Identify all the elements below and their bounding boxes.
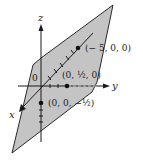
z-axis-arrow-icon: [39, 24, 44, 31]
plane-intercepts-diagram: z y x 0 (− 5, 0, 0) (0, ½, 0) (0, 0, −½): [0, 0, 143, 165]
point-y-intercept-label: (0, ½, 0): [62, 71, 101, 80]
z-axis-label: z: [38, 13, 43, 23]
diagram-canvas: [0, 0, 143, 165]
x-axis-label: x: [9, 110, 15, 120]
y-axis-label: y: [112, 81, 118, 91]
point-z-intercept: [39, 101, 44, 106]
point-y-intercept: [65, 84, 70, 89]
point-x-intercept-label: (− 5, 0, 0): [85, 44, 131, 53]
point-x-intercept: [76, 46, 81, 51]
y-axis-arrow-icon: [103, 84, 110, 89]
point-z-intercept-label: (0, 0, −½): [48, 99, 94, 108]
origin-label: 0: [32, 74, 38, 83]
